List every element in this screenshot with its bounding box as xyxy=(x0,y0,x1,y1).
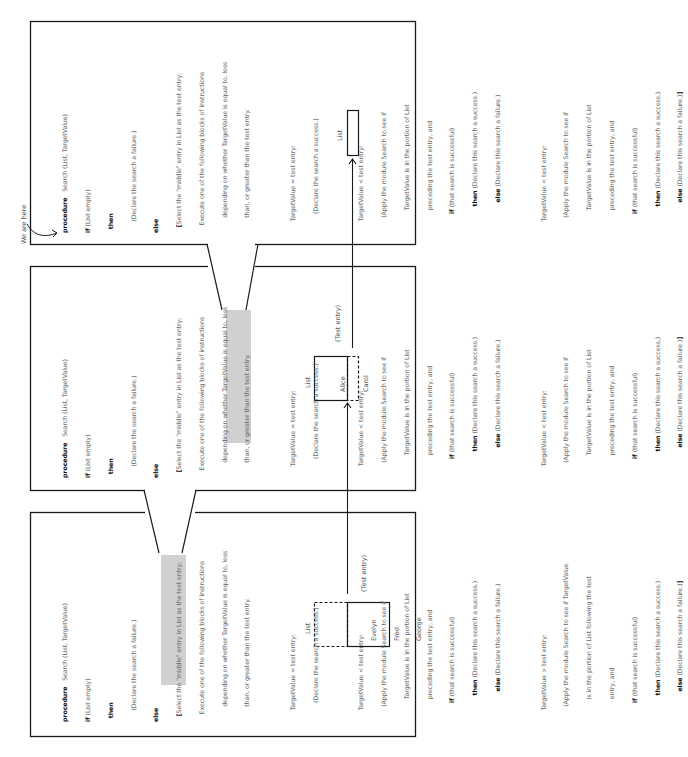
callout-line-left xyxy=(144,490,159,553)
apply-line: TargetValue is in the portion of List xyxy=(403,349,410,455)
else-text: (Declare this search a failure.) xyxy=(676,584,683,676)
kw-then: then xyxy=(471,191,478,207)
kw-then: then xyxy=(654,191,661,207)
then-text: (Declare this search a success.) xyxy=(654,581,661,678)
case-less-cond-2: TargetValue < test entry: xyxy=(540,391,547,467)
case-equal-body: (Declare the search a success.) xyxy=(312,607,319,703)
list-entry: Alice xyxy=(340,375,348,392)
kw-procedure: procedure xyxy=(61,443,68,478)
then-text: (Declare this search a success.) xyxy=(654,337,661,434)
panel-top-code: procedure Search (List, TargetValue) if … xyxy=(46,62,688,233)
kw-then: then xyxy=(107,213,114,229)
bracket: [ xyxy=(175,470,182,473)
bracket: ] xyxy=(676,92,683,95)
kw-then: then xyxy=(107,702,114,718)
apply-line-highlighted: preceding the test entry, and xyxy=(608,366,615,455)
kw-then: then xyxy=(471,436,478,452)
apply-line: preceding the test entry, and xyxy=(608,121,615,210)
callout-line-right xyxy=(182,490,196,553)
then-text: (Declare this search a success.) xyxy=(654,92,661,189)
apply-line-highlighted: (Apply the module Search to see if xyxy=(562,357,569,463)
kw-then: then xyxy=(107,458,114,474)
kw-else: else xyxy=(494,189,501,203)
apply-line: TargetValue is in the portion of List xyxy=(585,104,592,210)
if-condition: (List empty) xyxy=(84,189,91,226)
kw-then: then xyxy=(654,680,661,696)
else-text: (Declare this search a failure.) xyxy=(676,95,683,187)
middle-list-label: List xyxy=(304,377,312,388)
kw-else: else xyxy=(152,708,159,722)
middle-list-entries: Alice Carol xyxy=(325,375,385,392)
apply-line: (Apply the module Search to see if xyxy=(380,357,387,463)
signature: Search (List, TargetValue) xyxy=(61,603,68,681)
else-line: Execute one of the following blocks of i… xyxy=(198,317,205,470)
if-text: (that search is successful) xyxy=(631,128,638,208)
case-greater-cond: TargetValue < test entry: xyxy=(540,146,547,222)
middle-test-entry-label: (Test entry) xyxy=(334,305,342,342)
else-line: Select the "middle" entry in List as the… xyxy=(175,318,182,470)
case-equal-cond: TargetValue = test entry: xyxy=(289,146,296,222)
kw-else: else xyxy=(494,678,501,692)
apply-line: entry, and xyxy=(608,668,615,700)
kw-if: if xyxy=(631,454,638,459)
list-entry: George xyxy=(416,617,424,641)
kw-then: then xyxy=(654,436,661,452)
kw-else: else xyxy=(494,434,501,448)
else-line: Execute one of the following blocks of i… xyxy=(198,561,205,714)
kw-else: else xyxy=(676,678,683,692)
bottom-test-entry-label: (Test entry) xyxy=(360,555,368,592)
kw-else: else xyxy=(676,434,683,448)
case-less-cond: TargetValue < test entry: xyxy=(357,146,364,222)
else-line: than, or greater than the test entry. xyxy=(243,354,250,463)
bracket: ] xyxy=(676,337,683,340)
apply-line: TargetValue is in the portion of List xyxy=(403,104,410,210)
kw-if: if xyxy=(631,209,638,214)
apply-line-highlighted: TargetValue is in the portion of List xyxy=(403,593,410,699)
kw-if: if xyxy=(448,698,455,703)
if-text: (that search is successful) xyxy=(631,373,638,453)
else-line: Select the "middle" entry in List as the… xyxy=(175,73,182,225)
list-entry: Evelyn xyxy=(371,617,379,641)
case-less-cond: TargetValue < test entry: xyxy=(357,391,364,467)
kw-if: if xyxy=(448,209,455,214)
list-entry: Fred xyxy=(394,617,402,641)
then-text: (Declare this search a success.) xyxy=(471,92,478,189)
else-text: (Declare this search a failure.) xyxy=(494,340,501,432)
case-equal-cond: TargetValue = test entry: xyxy=(289,391,296,467)
if-text: (that search is successful) xyxy=(631,617,638,697)
else-line: depending on whether TargetValue is equa… xyxy=(221,307,228,463)
if-text: (that search is successful) xyxy=(448,373,455,453)
case-equal-cond: TargetValue = test entry: xyxy=(289,635,296,711)
else-text: (Declare this search a failure.) xyxy=(494,584,501,676)
kw-if: if xyxy=(84,717,91,722)
apply-line: (Apply the module Search to see if Targe… xyxy=(562,563,569,706)
apply-line: preceding the test entry, and xyxy=(426,121,433,210)
bracket: ] xyxy=(676,581,683,584)
kw-else: else xyxy=(152,219,159,233)
panel-middle-code: procedure Search (List, TargetValue) if … xyxy=(46,307,688,478)
signature: Search (List, TargetValue) xyxy=(61,359,68,437)
else-line: Select the "middle" entry in List as the… xyxy=(175,562,182,714)
bracket: [ xyxy=(175,225,182,228)
apply-line-highlighted: TargetValue is in the portion of List xyxy=(585,349,592,455)
callout-line-left xyxy=(207,244,222,310)
kw-if: if xyxy=(631,698,638,703)
we-are-here-label: We are here xyxy=(20,205,28,244)
then-text: (Declare this search a success.) xyxy=(471,337,478,434)
apply-line: is in the portion of List following the … xyxy=(585,576,592,699)
else-line: depending on whether TargetValue is equa… xyxy=(221,551,228,707)
then-body: (Declare the search a failure.) xyxy=(130,131,137,222)
apply-line: (Apply the module Search to see if xyxy=(562,112,569,218)
list-entry: Carol xyxy=(363,375,371,392)
signature: Search (List, TargetValue) xyxy=(61,114,68,192)
else-line: than, or greater than the test entry. xyxy=(243,598,250,707)
else-text: (Declare this search a failure.) xyxy=(494,95,501,187)
bottom-list-entries: Evelyn Fred George xyxy=(356,617,439,641)
if-text: (that search is successful) xyxy=(448,128,455,208)
else-line: than, or greater than the test entry. xyxy=(243,109,250,218)
else-text: (Declare this search a failure.) xyxy=(676,340,683,432)
apply-line: preceding the test entry, and xyxy=(426,366,433,455)
else-line: depending on whether TargetValue is equa… xyxy=(221,62,228,218)
kw-procedure: procedure xyxy=(61,687,68,722)
